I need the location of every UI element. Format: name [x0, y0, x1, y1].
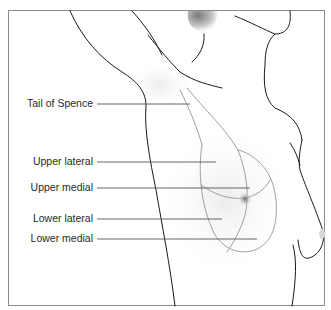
side-nipple: [319, 229, 325, 239]
label-upper-lateral: Upper lateral: [33, 155, 93, 167]
armpit-shading: [125, 60, 195, 110]
label-tail-of-spence: Tail of Spence: [27, 97, 93, 109]
body-shading: [155, 120, 295, 280]
label-lower-lateral: Lower lateral: [33, 212, 93, 224]
label-lower-medial: Lower medial: [31, 232, 93, 244]
label-upper-medial: Upper medial: [31, 181, 93, 193]
nipple-marker: [237, 191, 253, 207]
jaw-shadow: [188, 11, 218, 34]
